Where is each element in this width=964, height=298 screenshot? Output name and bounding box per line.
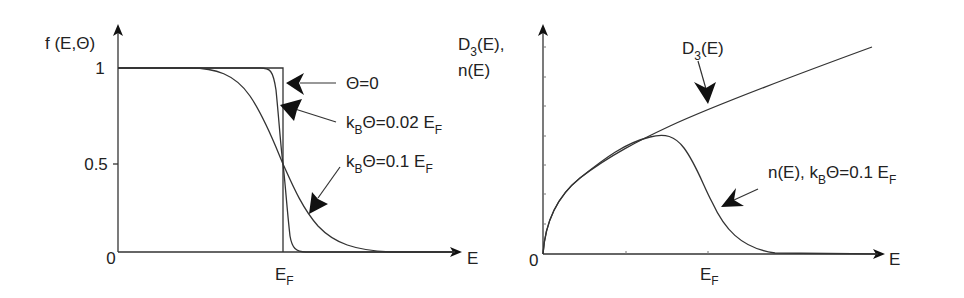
left-x-label: E bbox=[467, 249, 478, 268]
curve-d3 bbox=[543, 47, 872, 254]
label-theta0: Θ=0 bbox=[346, 74, 379, 93]
left-y-label: f (E,Θ) bbox=[45, 34, 95, 53]
ytick-1: 1 bbox=[95, 59, 104, 78]
pointer-kt01 bbox=[318, 167, 340, 198]
right-y-label-1: D3(E), bbox=[458, 35, 504, 59]
left-xtick-ef: EF bbox=[275, 265, 294, 288]
label-kt01: kBΘ=0.1 EF bbox=[346, 152, 433, 176]
right-y-label-2: n(E) bbox=[458, 61, 490, 80]
label-kt002: kBΘ=0.02 EF bbox=[346, 113, 442, 137]
ytick-05: 0.5 bbox=[84, 155, 108, 174]
left-panel: 1 0.5 0 f (E,Θ) E EF Θ=0 kBΘ=0.02 EF kBΘ… bbox=[45, 24, 478, 288]
right-origin: 0 bbox=[529, 251, 538, 270]
curve-theta-0 bbox=[118, 68, 283, 252]
arrowhead-icon bbox=[286, 73, 304, 95]
figure: 1 0.5 0 f (E,Θ) E EF Θ=0 kBΘ=0.02 EF kBΘ… bbox=[0, 0, 964, 298]
ytick-0: 0 bbox=[106, 249, 115, 268]
arrowhead-icon bbox=[309, 192, 328, 214]
curve-n bbox=[543, 135, 878, 254]
label-ne: n(E), kBΘ=0.1 EF bbox=[768, 163, 896, 187]
pointer-ne bbox=[734, 189, 758, 200]
pointer-kt002 bbox=[295, 109, 336, 122]
right-x-label: E bbox=[889, 250, 900, 269]
right-xtick-ef: EF bbox=[700, 265, 719, 288]
right-panel: D3(E), n(E) 0 E EF D3(E) n(E), kBΘ=0.1 E… bbox=[458, 24, 900, 288]
label-d3: D3(E) bbox=[682, 39, 724, 63]
